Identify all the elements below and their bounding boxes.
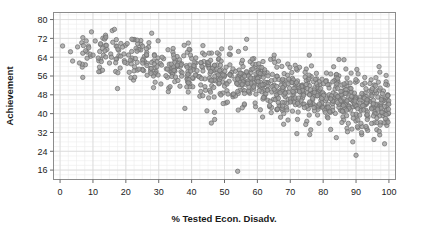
x-tick-label: 10 xyxy=(88,187,98,197)
chart-background xyxy=(0,0,427,234)
y-tick-label: 48 xyxy=(37,90,47,100)
y-tick-label: 56 xyxy=(37,71,47,81)
x-tick-label: 90 xyxy=(351,187,361,197)
y-tick-label: 24 xyxy=(37,147,47,157)
y-tick-label: 72 xyxy=(37,34,47,44)
x-tick-label: 40 xyxy=(187,187,197,197)
y-tick-label: 16 xyxy=(37,165,47,175)
y-tick-label: 40 xyxy=(37,109,47,119)
x-tick-label: 80 xyxy=(318,187,328,197)
y-tick-labels: 162432404856647280 xyxy=(37,15,47,176)
y-tick-label: 80 xyxy=(37,15,47,25)
x-tick-label: 30 xyxy=(154,187,164,197)
y-tick-label: 64 xyxy=(37,53,47,63)
y-tick-label: 32 xyxy=(37,128,47,138)
x-tick-label: 0 xyxy=(58,187,63,197)
chart-canvas: 0102030405060708090100 16243240485664728… xyxy=(0,0,427,234)
x-tick-label: 100 xyxy=(381,187,396,197)
x-tick-label: 70 xyxy=(285,187,295,197)
x-tick-label: 50 xyxy=(219,187,229,197)
x-tick-label: 60 xyxy=(252,187,262,197)
x-axis-title: % Tested Econ. Disadv. xyxy=(171,213,276,224)
y-axis-title: Achievement xyxy=(4,66,15,126)
scatter-chart: 0102030405060708090100 16243240485664728… xyxy=(0,0,427,234)
x-tick-label: 20 xyxy=(121,187,131,197)
